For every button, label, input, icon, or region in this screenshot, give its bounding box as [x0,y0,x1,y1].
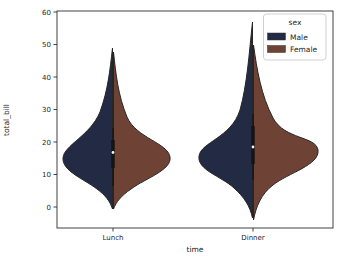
x-tick: Dinner [241,228,265,242]
y-tick: 20 [42,139,57,147]
legend-label-female: Female [290,45,318,54]
x-tick: Lunch [103,228,124,242]
y-tick: 60 [42,9,57,17]
y-axis: 0 10 20 30 40 50 [42,9,57,212]
legend-entry-female: Female [268,45,318,54]
y-tick-label: 20 [42,139,51,147]
violin-lunch-female-half [114,52,171,209]
y-tick-label: 40 [42,74,51,82]
y-tick: 10 [42,171,57,179]
legend-swatch-male [268,33,286,40]
y-tick-label: 50 [42,41,51,49]
violin-lunch-male-half [63,48,113,209]
legend-title: sex [289,18,302,27]
legend-label-male: Male [290,33,308,42]
y-tick-label: 60 [42,9,51,17]
violin-plot-figure: 0 10 20 30 40 50 [0,0,341,265]
y-tick-label: 10 [42,171,51,179]
y-tick-label: 30 [42,106,51,114]
violin-lunch [63,48,170,209]
x-axis-label: time [187,245,204,254]
x-tick-label: Dinner [241,234,265,242]
violin-dinner-female-half [254,45,319,220]
violin-dinner-male-half [199,22,253,218]
x-tick-label: Lunch [103,234,124,242]
y-tick: 0 [47,204,57,212]
y-axis-label: total_bill [2,104,11,136]
y-tick: 50 [42,41,57,49]
y-tick-label: 0 [47,204,51,212]
legend: sex Male Female [264,14,327,60]
y-tick: 40 [42,74,57,82]
violin-plot-canvas: 0 10 20 30 40 50 [0,0,341,265]
y-tick: 30 [42,106,57,114]
x-axis: Lunch Dinner [103,228,265,242]
legend-swatch-female [268,46,286,53]
